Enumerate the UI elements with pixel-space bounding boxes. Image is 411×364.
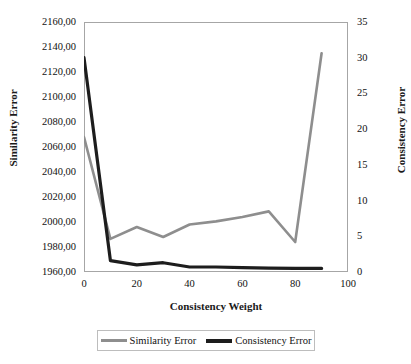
legend-item-consistency-error: Consistency Error [206,335,311,346]
legend-swatch-similarity-error [101,339,127,342]
x-axis-tick-label: 60 [222,278,262,289]
x-axis-tick-label: 100 [328,278,368,289]
legend-label-similarity-error: Similarity Error [130,335,197,346]
legend-swatch-consistency-error [206,339,232,343]
plot-lines [84,22,348,272]
legend-item-similarity-error: Similarity Error [101,335,197,346]
legend-label-consistency-error: Consistency Error [235,335,311,346]
series-line-consistency-error [84,58,322,269]
x-axis-tick-label: 40 [170,278,210,289]
chart-container: Similarity Error Consistency Error Consi… [0,0,411,364]
series-line-similarity-error [84,53,322,242]
chart-legend: Similarity Error Consistency Error [97,330,315,351]
x-axis-tick-label: 20 [117,278,157,289]
x-axis-tick-label: 80 [275,278,315,289]
x-axis-tick-label: 0 [64,278,104,289]
